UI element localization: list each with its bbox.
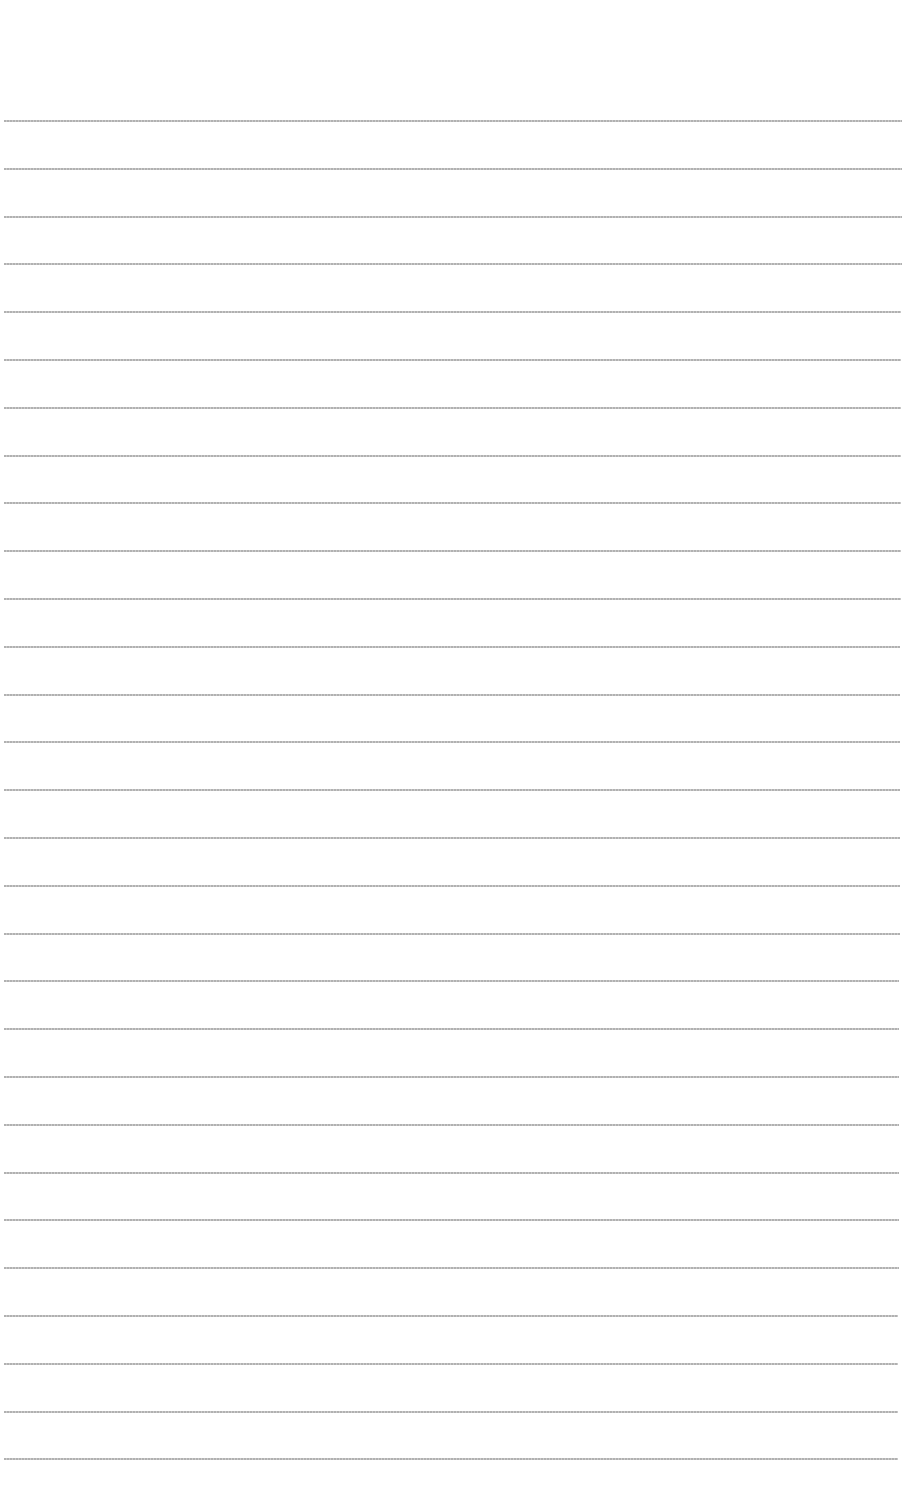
- ruled-line: [4, 168, 902, 170]
- ruled-line: [4, 359, 901, 361]
- ruled-line: [4, 933, 900, 935]
- ruled-line: [4, 1267, 899, 1269]
- ruled-line: [4, 1458, 898, 1460]
- ruled-line: [4, 646, 900, 648]
- ruled-line: [4, 1124, 899, 1126]
- ruled-line: [4, 1076, 899, 1078]
- ruled-line: [4, 598, 901, 600]
- ruled-line: [4, 1172, 899, 1174]
- ruled-line: [4, 455, 901, 457]
- ruled-line: [4, 694, 900, 696]
- ruled-line: [4, 550, 901, 552]
- ruled-line: [4, 1411, 898, 1413]
- ruled-line: [4, 741, 900, 743]
- ruled-line: [4, 885, 900, 887]
- ruled-line: [4, 1363, 898, 1365]
- ruled-line: [4, 407, 901, 409]
- ruled-line: [4, 789, 900, 791]
- ruled-line: [4, 263, 902, 265]
- ruled-paper-sheet: [0, 0, 907, 1485]
- ruled-line: [4, 216, 902, 218]
- ruled-line: [4, 120, 902, 122]
- ruled-line: [4, 1315, 898, 1317]
- ruled-line: [4, 311, 901, 313]
- ruled-line: [4, 980, 899, 982]
- ruled-line: [4, 1219, 899, 1221]
- ruled-line: [4, 837, 900, 839]
- ruled-line: [4, 502, 901, 504]
- ruled-line: [4, 1028, 899, 1030]
